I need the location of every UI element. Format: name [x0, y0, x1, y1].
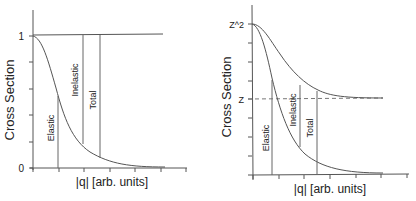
left-label-elastic: Elastic [46, 114, 56, 141]
right-label-total: Total [305, 118, 315, 137]
figure: 1 0 Cross Section |q| [arb. units] Elast… [0, 0, 416, 201]
left-x-label: |q| [arb. units] [76, 175, 148, 189]
right-tick-z: Z [239, 95, 245, 105]
right-x-axis [252, 174, 409, 175]
left-chart: 1 0 Cross Section |q| [arb. units] Elast… [2, 10, 187, 189]
left-tick-1: 1 [18, 31, 24, 42]
right-chart: Z^2 Z Cross Section |q| [arb. units] Ela… [219, 5, 409, 196]
right-tick-z2: Z^2 [229, 20, 244, 30]
right-label-elastic: Elastic [261, 124, 271, 151]
left-tick-0: 0 [18, 163, 24, 174]
left-label-inelastic: Inelastic [70, 63, 80, 97]
right-y-label: Cross Section [219, 57, 234, 138]
right-x-label: |q| [arb. units] [294, 182, 366, 196]
right-y-axis [252, 5, 253, 180]
left-y-label: Cross Section [2, 60, 17, 141]
left-total-line [33, 34, 163, 35]
right-label-inelastic: Inelastic [288, 93, 298, 127]
left-label-total: Total [88, 90, 98, 109]
left-elastic-curve [33, 36, 165, 167]
